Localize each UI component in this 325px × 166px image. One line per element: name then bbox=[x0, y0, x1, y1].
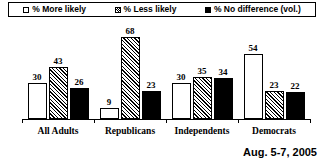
bar-all-adults-less-likely: 43 bbox=[49, 56, 68, 119]
bar-value: 34 bbox=[219, 67, 228, 77]
bar-value: 68 bbox=[126, 26, 135, 36]
bar-rect bbox=[172, 83, 191, 119]
category-label-democrats: Democrats bbox=[238, 126, 310, 136]
hatched-square-icon bbox=[115, 7, 121, 13]
bar-value: 54 bbox=[249, 43, 258, 53]
legend-item-less-likely: % Less likely bbox=[115, 5, 177, 14]
bar-independents-no-difference: 34 bbox=[214, 67, 233, 119]
bar-value: 23 bbox=[147, 80, 156, 90]
bar-rect bbox=[214, 78, 233, 119]
bar-value: 43 bbox=[54, 56, 63, 66]
bar-group-all-adults: 30 43 26 bbox=[22, 23, 94, 119]
bar-value: 26 bbox=[75, 77, 84, 87]
category-label-republicans: Republicans bbox=[94, 126, 166, 136]
legend-label-more-likely: % More likely bbox=[32, 5, 86, 14]
bar-rect bbox=[121, 37, 140, 119]
bar-rect bbox=[265, 91, 284, 119]
axis-tick bbox=[238, 119, 239, 123]
bar-group-independents: 30 35 34 bbox=[166, 23, 238, 119]
axis-tick bbox=[94, 119, 95, 123]
bar-rect bbox=[193, 77, 212, 119]
chart-figure: % More likely % Less likely % No differe… bbox=[0, 0, 325, 166]
bar-value: 22 bbox=[291, 81, 300, 91]
bar-value: 30 bbox=[177, 72, 186, 82]
axis-tick bbox=[22, 119, 23, 123]
bar-group-republicans: 9 68 23 bbox=[94, 23, 166, 119]
legend-label-less-likely: % Less likely bbox=[124, 5, 177, 14]
bar-rect bbox=[100, 108, 119, 119]
bar-democrats-no-difference: 22 bbox=[286, 81, 305, 119]
bar-group-democrats: 54 23 22 bbox=[238, 23, 310, 119]
bar-republicans-more-likely: 9 bbox=[100, 97, 119, 119]
bar-value: 30 bbox=[33, 72, 42, 82]
bar-republicans-less-likely: 68 bbox=[121, 26, 140, 119]
axis-tick bbox=[166, 119, 167, 123]
plot-area: 30 43 26 9 68 23 bbox=[0, 20, 325, 122]
bar-rect bbox=[49, 67, 68, 119]
bar-republicans-no-difference: 23 bbox=[142, 80, 161, 119]
bar-rect bbox=[244, 54, 263, 119]
bar-independents-more-likely: 30 bbox=[172, 72, 191, 119]
bar-all-adults-more-likely: 30 bbox=[28, 72, 47, 119]
bar-rect bbox=[286, 92, 305, 119]
bar-all-adults-no-difference: 26 bbox=[70, 77, 89, 119]
open-square-icon bbox=[23, 7, 29, 13]
bar-independents-less-likely: 35 bbox=[193, 66, 212, 119]
bar-democrats-less-likely: 23 bbox=[265, 80, 284, 119]
filled-square-icon bbox=[205, 7, 211, 13]
bar-rect bbox=[28, 83, 47, 119]
axis-tick bbox=[310, 119, 311, 123]
bar-rect bbox=[142, 91, 161, 119]
bar-value: 9 bbox=[107, 97, 112, 107]
legend-label-no-difference: % No difference (vol.) bbox=[214, 5, 301, 14]
category-label-all-adults: All Adults bbox=[22, 126, 94, 136]
bar-rect bbox=[70, 88, 89, 119]
legend-item-no-difference: % No difference (vol.) bbox=[205, 5, 301, 14]
chart-legend: % More likely % Less likely % No differe… bbox=[8, 2, 316, 17]
bar-value: 23 bbox=[270, 80, 279, 90]
category-label-independents: Independents bbox=[166, 126, 238, 136]
legend-item-more-likely: % More likely bbox=[23, 5, 86, 14]
bar-value: 35 bbox=[198, 66, 207, 76]
bar-democrats-more-likely: 54 bbox=[244, 43, 263, 119]
survey-date-label: Aug. 5-7, 2005 bbox=[243, 146, 317, 158]
